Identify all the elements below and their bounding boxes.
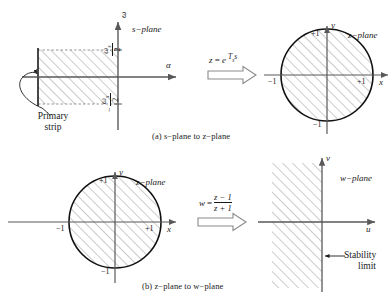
formula-a-lhs: z	[209, 55, 213, 65]
formula-b-num: z − 1	[214, 193, 232, 202]
caption-b: (b) z−plane to w−plane	[142, 281, 223, 291]
stability-region	[272, 163, 322, 288]
stability-limit-annotation: Stability limit	[344, 250, 390, 272]
z-plane-label-bottom: z−plane	[136, 177, 166, 187]
z-plane-x-label-top: x	[379, 77, 383, 87]
s-plane-label: s−plane	[132, 24, 162, 34]
formula-b-eq: =	[207, 198, 212, 208]
transform-arrow-a	[208, 67, 256, 84]
primary-strip-line1: Primary	[26, 111, 80, 122]
z-plane-tick-left-bottom: −1	[56, 224, 65, 233]
s-plane-omega-axis-label: ω	[118, 12, 128, 18]
z-plane-tick-left-top: −1	[268, 77, 277, 86]
z-plane-tick-bottom-top: −1	[313, 120, 322, 129]
z-plane-tick-top-bottom: +1	[99, 176, 108, 185]
formula-b-lhs: w	[199, 198, 205, 208]
z-plane-tick-top-top: +1	[311, 29, 320, 38]
transform-formula-a: z = e Tss	[209, 52, 237, 65]
z-plane-tick-bottom-bottom: −1	[101, 267, 110, 276]
z-plane-y-label-bottom: y	[119, 167, 123, 177]
z-plane-diagram-top	[264, 26, 388, 134]
figure-root: s−plane ω α ωs 2 − ωs 2 Primary strip z …	[0, 0, 391, 301]
stability-limit-line2: limit	[344, 261, 390, 272]
transform-arrow-b	[198, 214, 246, 231]
transform-formula-b: w = z − 1 z + 1	[199, 193, 232, 213]
w-plane-v-label: v	[326, 153, 330, 163]
z-plane-y-label-top: y	[331, 20, 335, 30]
caption-a: (a) s−plane to z−plane	[152, 131, 230, 141]
formula-a-exp-tail: s	[234, 52, 237, 61]
primary-strip-line2: strip	[26, 122, 80, 133]
w-plane-label: w−plane	[340, 173, 372, 183]
figure-canvas	[0, 0, 391, 301]
stability-limit-line1: Stability	[344, 250, 390, 261]
z-plane-label-top: z−plane	[348, 30, 378, 40]
s-plane-alpha-axis-label: α	[166, 60, 171, 70]
tick-upper-sub: s	[106, 45, 112, 47]
z-plane-tick-right-bottom: +1	[145, 224, 154, 233]
formula-b-den: z + 1	[214, 204, 232, 213]
tick-lower-sub: s	[104, 96, 110, 98]
s-plane-tick-lower: − ωs 2	[98, 98, 132, 112]
z-plane-tick-right-top: +1	[357, 77, 366, 86]
primary-strip-annotation: Primary strip	[26, 111, 80, 133]
tick-lower-sign: −	[105, 107, 114, 112]
z-plane-x-label-bottom: x	[167, 224, 171, 234]
w-plane-u-label: u	[366, 224, 371, 234]
tick-lower-den: 2	[112, 98, 120, 102]
tick-lower-omega: ω	[98, 98, 108, 104]
tick-upper-omega: ω	[100, 48, 110, 54]
formula-a-eq: =	[215, 55, 220, 65]
s-plane-tick-upper: ωs 2	[100, 42, 134, 56]
tick-upper-den: 2	[114, 48, 122, 52]
